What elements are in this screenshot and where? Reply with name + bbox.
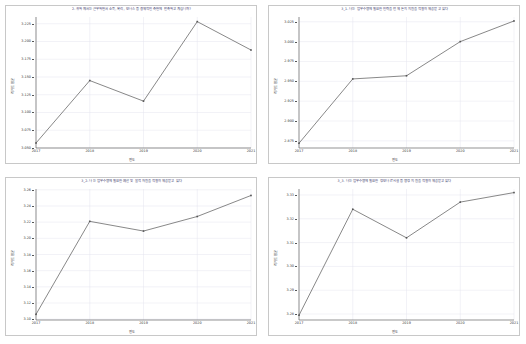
data-point-marker <box>89 221 91 223</box>
plot-area <box>36 17 251 148</box>
chart-panel-4: 3_3. 나는 업무수행에 필요한 정보나 IT시설 등 행정 지원을 적절히 … <box>263 172 526 344</box>
chart-title: 3_3. 나는 업무수행에 필요한 정보나 IT시설 등 행정 지원을 적절히 … <box>263 179 526 183</box>
x-tick-label: 2020 <box>456 149 465 153</box>
x-tick-label: 2021 <box>510 149 519 153</box>
x-tick-label: 2017 <box>295 149 304 153</box>
y-axis-ticks: 2.8752.9002.9252.9502.9753.0003.025 <box>263 17 297 148</box>
y-tick-label: 3.31 <box>286 241 294 245</box>
y-tick-label: 2.925 <box>284 99 294 103</box>
x-tick-label: 2018 <box>348 149 357 153</box>
y-tick-label: 2.950 <box>284 79 294 83</box>
x-tick-label: 2017 <box>295 321 304 325</box>
y-axis-ticks: 3.0503.0753.1003.1253.1503.1753.2003.225 <box>0 17 34 148</box>
x-tick-label: 2017 <box>32 149 41 153</box>
data-point-marker <box>143 100 145 102</box>
y-tick-label: 3.29 <box>286 288 294 292</box>
y-tick-label: 3.14 <box>23 285 31 289</box>
data-point-marker <box>89 80 91 82</box>
x-axis-ticks: 20172018201920202021 <box>36 321 251 329</box>
data-point-marker <box>35 314 37 316</box>
data-point-marker <box>298 142 300 144</box>
y-tick-label: 3.28 <box>286 312 294 316</box>
y-axis-label: 리커트 평균 <box>10 250 15 266</box>
chart-title: 3_2. 나는 업무수행에 필요한 예산 및 물적 자원을 적절히 제공받고 있… <box>0 179 263 183</box>
x-tick-label: 2019 <box>402 149 411 153</box>
x-tick-label: 2018 <box>85 149 94 153</box>
x-tick-label: 2021 <box>510 321 519 325</box>
line-plot <box>36 189 251 320</box>
x-tick-label: 2020 <box>193 321 202 325</box>
data-point-marker <box>513 192 515 194</box>
y-tick-label: 3.20 <box>23 236 31 240</box>
x-axis-ticks: 20172018201920202021 <box>299 321 514 329</box>
y-axis-ticks: 3.103.123.143.163.183.203.223.243.26 <box>0 189 34 320</box>
y-tick-label: 3.200 <box>21 39 31 43</box>
data-point-marker <box>406 75 408 77</box>
y-tick-label: 3.125 <box>21 93 31 97</box>
plot-area <box>36 189 251 320</box>
x-axis-label: 연도 <box>263 157 526 162</box>
x-tick-label: 2021 <box>247 149 256 153</box>
y-tick-label: 3.12 <box>23 301 31 305</box>
y-tick-label: 3.30 <box>286 264 294 268</box>
y-tick-label: 3.10 <box>23 317 31 321</box>
chart-title: 2. 귀하께서는 근무하면서 소득, 복리, 보너스 등 경제적인 측면에 만족… <box>0 7 263 11</box>
x-tick-label: 2017 <box>32 321 41 325</box>
y-axis-label: 리커트 평균 <box>10 78 15 94</box>
y-tick-label: 3.32 <box>286 217 294 221</box>
chart-panel-3: 3_2. 나는 업무수행에 필요한 예산 및 물적 자원을 적절히 제공받고 있… <box>0 172 263 344</box>
y-tick-label: 3.050 <box>21 146 31 150</box>
data-point-marker <box>250 49 252 51</box>
line-plot <box>299 17 514 148</box>
x-axis-ticks: 20172018201920202021 <box>299 149 514 157</box>
data-point-marker <box>513 20 515 22</box>
y-tick-label: 3.175 <box>21 57 31 61</box>
plot-area <box>299 17 514 148</box>
data-point-marker <box>298 314 300 316</box>
data-point-marker <box>352 208 354 210</box>
y-tick-label: 3.150 <box>21 75 31 79</box>
x-tick-label: 2019 <box>139 321 148 325</box>
x-tick-label: 2019 <box>402 321 411 325</box>
y-tick-label: 3.000 <box>284 40 294 44</box>
x-tick-label: 2021 <box>247 321 256 325</box>
y-tick-label: 3.16 <box>23 269 31 273</box>
data-point-marker <box>196 21 198 23</box>
x-axis-ticks: 20172018201920202021 <box>36 149 251 157</box>
y-tick-label: 3.075 <box>21 128 31 132</box>
chart-panel-2: 3_1. 나는 업무수행에 필요한 인력을 언제 든지 지원을 적절히 제공받고… <box>263 0 526 172</box>
chart-grid: 2. 귀하께서는 근무하면서 소득, 복리, 보너스 등 경제적인 측면에 만족… <box>0 0 526 344</box>
y-axis-label: 리커트 평균 <box>273 250 278 266</box>
y-tick-label: 3.33 <box>286 193 294 197</box>
data-point-marker <box>250 195 252 197</box>
y-tick-label: 3.225 <box>21 22 31 26</box>
y-tick-label: 3.100 <box>21 110 31 114</box>
data-point-marker <box>143 230 145 232</box>
y-tick-label: 3.025 <box>284 20 294 24</box>
line-plot <box>299 189 514 320</box>
line-plot <box>36 17 251 148</box>
y-axis-label: 리커트 평균 <box>273 78 278 94</box>
y-tick-label: 3.22 <box>23 220 31 224</box>
y-tick-label: 3.18 <box>23 253 31 257</box>
x-tick-label: 2020 <box>193 149 202 153</box>
y-tick-label: 2.900 <box>284 119 294 123</box>
x-axis-label: 연도 <box>263 329 526 334</box>
data-point-marker <box>406 237 408 239</box>
x-tick-label: 2018 <box>85 321 94 325</box>
chart-panel-1: 2. 귀하께서는 근무하면서 소득, 복리, 보너스 등 경제적인 측면에 만족… <box>0 0 263 172</box>
x-tick-label: 2020 <box>456 321 465 325</box>
plot-area <box>299 189 514 320</box>
x-tick-label: 2019 <box>139 149 148 153</box>
data-point-marker <box>352 78 354 80</box>
data-point-marker <box>196 216 198 218</box>
chart-title: 3_1. 나는 업무수행에 필요한 인력을 언제 든지 지원을 적절히 제공받고… <box>263 7 526 11</box>
data-point-marker <box>459 41 461 43</box>
y-tick-label: 2.875 <box>284 139 294 143</box>
y-axis-ticks: 3.283.293.303.313.323.33 <box>263 189 297 320</box>
x-tick-label: 2018 <box>348 321 357 325</box>
y-tick-label: 3.26 <box>23 188 31 192</box>
y-tick-label: 2.975 <box>284 59 294 63</box>
y-tick-label: 3.24 <box>23 204 31 208</box>
data-point-marker <box>459 201 461 203</box>
